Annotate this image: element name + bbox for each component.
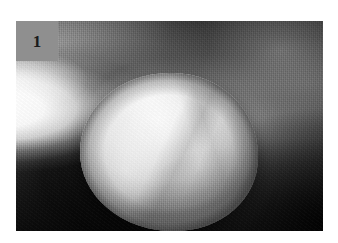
dough-highlight-upper (80, 73, 258, 231)
dough-rim-shading (80, 73, 258, 231)
dough-ball (80, 73, 258, 231)
dough-fold-shadow-lower (80, 73, 258, 231)
scanned-photograph: 1 (16, 21, 323, 231)
dough-crease-lines (80, 73, 258, 231)
panel-label-box: 1 (16, 21, 58, 61)
figure-panel: 1 (0, 0, 338, 243)
panel-label-text: 1 (33, 33, 42, 50)
